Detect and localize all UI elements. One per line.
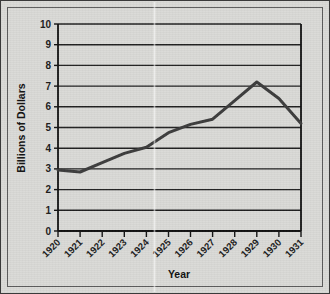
y-tick-labels: 10 9 8 7 6 5 4 3 2 1 0 <box>40 19 52 237</box>
y-tick-label-4: 4 <box>45 143 51 154</box>
y-tick-label-1: 1 <box>45 205 51 216</box>
x-tick-label-1930: 1930 <box>260 237 283 260</box>
y-tick-label-3: 3 <box>45 163 51 174</box>
y-tick-label-8: 8 <box>45 60 51 71</box>
x-tick-label-1928: 1928 <box>216 236 239 259</box>
x-tick-labels: 1920 1921 1922 1923 1924 1925 1926 1927 … <box>40 236 306 259</box>
x-tick-label-1927: 1927 <box>194 237 217 260</box>
y-axis-title: Billions of Dollars <box>15 83 27 172</box>
x-tick-label-1922: 1922 <box>84 237 107 260</box>
y-tick-label-6: 6 <box>45 101 51 112</box>
x-tick-label-1929: 1929 <box>238 237 261 260</box>
x-tick-label-1931: 1931 <box>283 236 306 259</box>
line-chart-plot: 10 9 8 7 6 5 4 3 2 1 0 <box>1 1 330 294</box>
y-tick-label-7: 7 <box>45 81 51 92</box>
y-tick-label-9: 9 <box>45 39 51 50</box>
x-tick-label-1924: 1924 <box>128 236 151 259</box>
gridlines-horizontal <box>58 24 301 210</box>
y-tick-label-0: 0 <box>45 226 51 237</box>
y-tick-label-5: 5 <box>45 122 51 133</box>
x-tick-label-1923: 1923 <box>106 237 129 260</box>
chart-figure: 10 9 8 7 6 5 4 3 2 1 0 <box>0 0 330 294</box>
x-tick-label-1921: 1921 <box>62 236 85 259</box>
x-tick-label-1926: 1926 <box>172 237 195 260</box>
x-tick-label-1925: 1925 <box>150 236 173 259</box>
x-tick-label-1920: 1920 <box>40 237 63 260</box>
y-tick-label-10: 10 <box>40 19 52 30</box>
x-axis-title: Year <box>168 268 190 280</box>
y-tick-label-2: 2 <box>45 184 51 195</box>
